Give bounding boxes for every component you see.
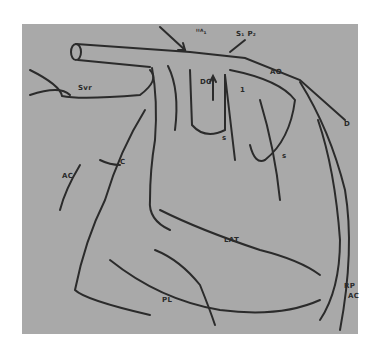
label-ac-left: AC bbox=[62, 172, 73, 180]
label-c: C bbox=[120, 158, 125, 166]
label-dc: DC bbox=[200, 78, 212, 86]
label-ao: AO bbox=[270, 68, 282, 76]
label-s-center: s bbox=[222, 134, 226, 142]
coronary-artery-diagram: ᴵᴵᴬ₁ S₁ P₂ Svr AO DC 1 s s D C AC LAT PL… bbox=[22, 24, 358, 334]
label-top-annotation-1: ᴵᴵᴬ₁ bbox=[196, 28, 207, 36]
label-ac-right: AC bbox=[348, 292, 359, 300]
label-pl: PL bbox=[162, 296, 172, 304]
label-d: D bbox=[344, 120, 350, 128]
label-arrow-num: 1 bbox=[240, 86, 245, 94]
label-rp: RP bbox=[344, 282, 355, 290]
label-lat: LAT bbox=[224, 236, 239, 244]
label-s-right: s bbox=[282, 152, 286, 160]
label-svr: Svr bbox=[78, 84, 92, 92]
label-top-annotation-2: S₁ P₂ bbox=[236, 30, 256, 38]
